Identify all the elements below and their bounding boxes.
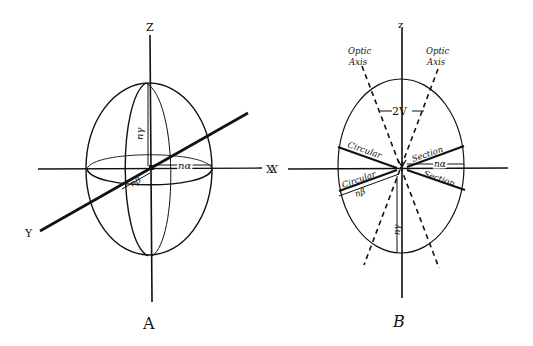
equator-front [87,169,212,185]
n-gamma-label-b: nγ [392,224,402,235]
n-beta-label-a: nβ [128,175,142,189]
figure-b [288,28,508,298]
caption-a: A [142,314,155,333]
optic-axis-right-line1: Optic [426,46,450,56]
n-alpha-label-a-ink: nα [178,160,191,171]
figure-b-labels: z X Optic Axis Optic Axis 2V Circular Se… [269,19,456,331]
x-label-b: X [269,163,279,176]
two-v-label: 2V [392,105,408,118]
optic-axis-right-line2: Axis [426,57,446,67]
n-alpha-label-b-ink: nα [434,159,446,169]
x-axis-b [288,168,508,169]
meridian-left [125,83,148,256]
indicatrix-diagram: Z X Y nγ nα nα nβ A z X Optic [0,0,533,346]
n-gamma-label-a: nγ [134,128,145,140]
optic-axis-left-line1: Optic [348,46,372,56]
n-beta-label-b: nβ [353,186,366,199]
caption-b: B [392,312,405,331]
origin-a [149,165,154,170]
optic-axis-left-line2: Axis [348,57,368,67]
section-label-lower: Section [422,168,456,188]
z-label-a: Z [146,21,154,34]
figure-a [38,35,262,302]
z-label-b: z [398,19,403,30]
figure-a-labels: Z X Y nγ nα nα nβ A [24,21,274,333]
y-label-a: Y [24,227,33,240]
